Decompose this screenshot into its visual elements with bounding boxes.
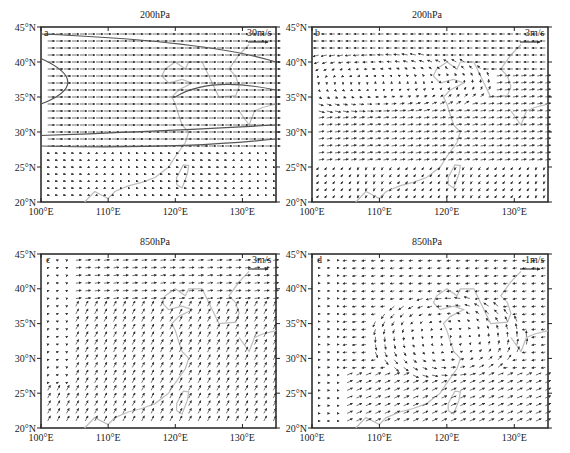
panel-b-title: 200hPa — [412, 9, 442, 20]
x-tick-label: 110°E — [96, 432, 121, 443]
y-tick-label: 25°N — [286, 388, 307, 399]
panel-a-title: 200hPa — [140, 9, 170, 20]
y-tick-label: 25°N — [15, 162, 36, 173]
y-tick-label: 25°N — [15, 388, 36, 399]
y-tick-label: 35°N — [286, 92, 307, 103]
x-tick-label: 120°E — [163, 432, 188, 443]
panel-c-plot: 100°E110°E120°E130°E45°N40°N35°N30°N25°N… — [15, 249, 280, 444]
y-tick-label: 25°N — [286, 162, 307, 173]
y-tick-label: 35°N — [15, 92, 36, 103]
y-tick-label: 35°N — [15, 318, 36, 329]
y-tick-label: 20°N — [15, 197, 36, 208]
y-tick-label: 40°N — [286, 283, 307, 294]
y-tick-label: 30°N — [15, 127, 36, 138]
panel-a-label: a — [44, 27, 48, 38]
x-tick-label: 120°E — [434, 432, 459, 443]
figure: 100°E110°E120°E130°E45°N40°N35°N30°N25°N… — [0, 0, 570, 453]
y-tick-label: 30°N — [286, 127, 307, 138]
y-tick-label: 45°N — [15, 22, 36, 33]
panel-c-title: 850hPa — [140, 236, 170, 247]
x-tick-label: 100°E — [28, 206, 53, 217]
panel-b-plot: 100°E110°E120°E130°E45°N40°N35°N30°N25°N… — [286, 22, 552, 218]
x-tick-label: 110°E — [367, 206, 392, 217]
y-tick-label: 20°N — [286, 423, 307, 434]
panel-c-ref: 3m/s — [252, 254, 271, 265]
x-tick-label: 110°E — [367, 432, 392, 443]
x-tick-label: 130°E — [230, 432, 255, 443]
y-tick-label: 45°N — [15, 249, 36, 260]
y-tick-label: 40°N — [15, 57, 36, 68]
y-tick-label: 30°N — [15, 353, 36, 364]
x-tick-label: 100°E — [299, 432, 324, 443]
panel-c-label: c — [46, 254, 50, 265]
y-tick-label: 20°N — [286, 197, 307, 208]
y-tick-label: 20°N — [15, 423, 36, 434]
x-tick-label: 100°E — [28, 432, 53, 443]
x-tick-label: 120°E — [163, 206, 188, 217]
panel-a-ref: 30m/s — [247, 27, 271, 38]
y-tick-label: 40°N — [15, 283, 36, 294]
panel-b-ref: 3m/s — [525, 27, 544, 38]
x-tick-label: 130°E — [230, 206, 255, 217]
panel-d-title: 850hPa — [412, 236, 442, 247]
panel-b-label: b — [315, 27, 320, 38]
x-tick-label: 130°E — [502, 432, 527, 443]
panel-d-plot: 100°E110°E120°E130°E45°N40°N35°N30°N25°N… — [286, 249, 552, 444]
x-tick-label: 120°E — [434, 206, 459, 217]
x-tick-label: 100°E — [299, 206, 324, 217]
x-tick-label: 110°E — [96, 206, 121, 217]
y-tick-label: 35°N — [286, 318, 307, 329]
panel-a-plot: 100°E110°E120°E130°E45°N40°N35°N30°N25°N… — [15, 22, 281, 218]
y-tick-label: 40°N — [286, 57, 307, 68]
y-tick-label: 45°N — [286, 249, 307, 260]
x-tick-label: 130°E — [502, 206, 527, 217]
panel-d-label: d — [317, 254, 322, 265]
y-tick-label: 45°N — [286, 22, 307, 33]
y-tick-label: 30°N — [286, 353, 307, 364]
panel-d-ref: 1m/s — [525, 254, 544, 265]
